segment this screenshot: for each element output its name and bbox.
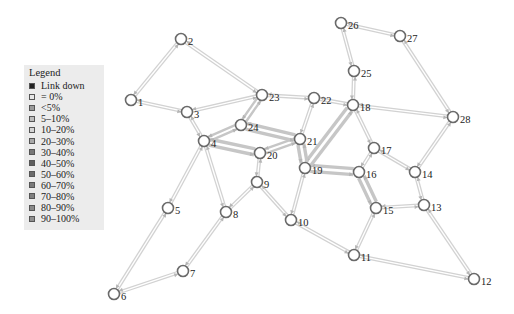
node-label: 6 bbox=[121, 291, 126, 302]
links-layer bbox=[116, 22, 472, 294]
node-label: 1 bbox=[138, 97, 143, 108]
legend-item-label: 70–80% bbox=[41, 191, 74, 202]
node-circle-icon[interactable] bbox=[354, 167, 365, 178]
legend-item: 10–20% bbox=[29, 124, 104, 135]
legend-item-label: 80–90% bbox=[41, 202, 74, 213]
node-label: 15 bbox=[383, 205, 394, 216]
link-10-19 bbox=[290, 173, 305, 215]
node-circle-icon[interactable] bbox=[395, 31, 406, 42]
legend-item: 80–90% bbox=[29, 202, 104, 213]
node-circle-icon[interactable] bbox=[369, 143, 380, 154]
node-circle-icon[interactable] bbox=[109, 289, 120, 300]
node-6[interactable]: 6 bbox=[109, 289, 127, 303]
node-circle-icon[interactable] bbox=[236, 120, 247, 131]
legend-swatch-icon bbox=[29, 160, 35, 166]
node-label: 5 bbox=[175, 205, 180, 216]
node-label: 2 bbox=[188, 36, 193, 47]
node-circle-icon[interactable] bbox=[176, 34, 187, 45]
node-circle-icon[interactable] bbox=[336, 18, 347, 29]
node-circle-icon[interactable] bbox=[182, 107, 193, 118]
legend-item: Link down bbox=[29, 80, 104, 91]
node-circle-icon[interactable] bbox=[126, 95, 137, 106]
node-label: 9 bbox=[264, 179, 269, 190]
legend-item-label: 40–50% bbox=[41, 158, 74, 169]
link-18-28 bbox=[358, 103, 447, 119]
node-circle-icon[interactable] bbox=[252, 177, 263, 188]
node-circle-icon[interactable] bbox=[221, 207, 232, 218]
node-label: 14 bbox=[422, 169, 433, 180]
node-label: 23 bbox=[269, 92, 280, 103]
legend-title: Legend bbox=[29, 67, 104, 79]
node-label: 16 bbox=[366, 169, 377, 180]
node-circle-icon[interactable] bbox=[419, 200, 430, 211]
legend-list: Link down= 0%<5%5–10%10–20%20–30%30–40%4… bbox=[29, 80, 104, 224]
link-1-2 bbox=[133, 42, 178, 96]
legend-item-label: 50–60% bbox=[41, 169, 74, 180]
node-circle-icon[interactable] bbox=[349, 250, 360, 261]
node-circle-icon[interactable] bbox=[178, 266, 189, 277]
node-10[interactable]: 10 bbox=[286, 215, 309, 229]
link-11-12 bbox=[359, 254, 469, 281]
node-3[interactable]: 3 bbox=[182, 107, 200, 121]
node-7[interactable]: 7 bbox=[178, 266, 196, 280]
node-label: 4 bbox=[211, 138, 217, 149]
node-label: 11 bbox=[361, 252, 371, 263]
node-24[interactable]: 24 bbox=[236, 120, 260, 134]
node-label: 8 bbox=[233, 209, 238, 220]
node-label: 26 bbox=[348, 20, 359, 31]
node-circle-icon[interactable] bbox=[255, 148, 266, 159]
link-2-23 bbox=[185, 41, 258, 93]
legend-item-label: 10–20% bbox=[41, 124, 74, 135]
legend-swatch-icon bbox=[29, 94, 35, 100]
node-circle-icon[interactable] bbox=[163, 203, 174, 214]
node-label: 18 bbox=[360, 102, 371, 113]
legend-item-label: 20–30% bbox=[41, 136, 74, 147]
legend-item: 90–100% bbox=[29, 213, 104, 224]
legend-item-label: <5% bbox=[41, 102, 60, 113]
link-21-22 bbox=[300, 103, 314, 134]
node-circle-icon[interactable] bbox=[410, 167, 421, 178]
node-11[interactable]: 11 bbox=[349, 250, 372, 264]
legend-item: 40–50% bbox=[29, 158, 104, 169]
link-23-24 bbox=[242, 98, 260, 122]
node-26[interactable]: 26 bbox=[336, 18, 359, 32]
legend-item-label: = 0% bbox=[41, 91, 62, 102]
node-circle-icon[interactable] bbox=[257, 90, 268, 101]
link-17-18 bbox=[354, 109, 373, 143]
node-circle-icon[interactable] bbox=[309, 93, 320, 104]
link-12-13 bbox=[426, 209, 472, 275]
node-circle-icon[interactable] bbox=[300, 163, 311, 174]
legend-swatch-icon bbox=[29, 127, 35, 133]
node-label: 3 bbox=[194, 109, 199, 120]
node-circle-icon[interactable] bbox=[286, 215, 297, 226]
node-circle-icon[interactable] bbox=[348, 100, 359, 111]
legend-item-label: 30–40% bbox=[41, 147, 74, 158]
node-1[interactable]: 1 bbox=[126, 95, 144, 109]
node-circle-icon[interactable] bbox=[448, 112, 459, 123]
node-label: 24 bbox=[248, 122, 259, 133]
node-label: 27 bbox=[407, 33, 418, 44]
node-label: 12 bbox=[481, 276, 492, 287]
legend-swatch-icon bbox=[29, 138, 35, 144]
legend-item-label: Link down bbox=[41, 80, 85, 91]
node-14[interactable]: 14 bbox=[410, 167, 434, 181]
legend-swatch-icon bbox=[29, 182, 35, 188]
node-label: 25 bbox=[361, 68, 372, 79]
legend-item: <5% bbox=[29, 102, 104, 113]
node-22[interactable]: 22 bbox=[309, 93, 332, 107]
node-12[interactable]: 12 bbox=[469, 274, 492, 288]
node-label: 28 bbox=[460, 114, 471, 125]
node-circle-icon[interactable] bbox=[469, 274, 480, 285]
link-4-5 bbox=[169, 145, 202, 204]
link-27-28 bbox=[402, 40, 451, 113]
node-circle-icon[interactable] bbox=[349, 66, 360, 77]
node-circle-icon[interactable] bbox=[295, 134, 306, 145]
node-circle-icon[interactable] bbox=[371, 203, 382, 214]
legend-item: = 0% bbox=[29, 91, 104, 102]
link-18-25 bbox=[350, 76, 357, 99]
legend-item: 20–30% bbox=[29, 135, 104, 146]
link-14-28 bbox=[417, 121, 451, 168]
node-circle-icon[interactable] bbox=[199, 136, 210, 147]
legend-swatch-icon bbox=[29, 216, 35, 222]
legend-item: 60–70% bbox=[29, 180, 104, 191]
